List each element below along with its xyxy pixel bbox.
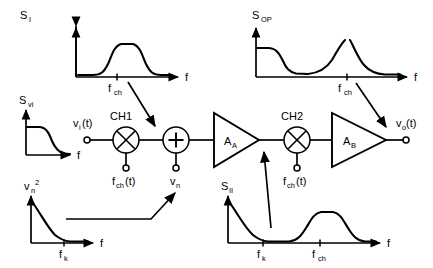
summer-node[interactable]: [163, 127, 189, 153]
plot-s-vi-ylabel: S: [19, 94, 26, 106]
plot-s-op-ylabel: S: [252, 9, 259, 21]
plot-s-op-xlabel: f: [414, 71, 418, 83]
plot-s-i-ylabel: S: [20, 9, 27, 21]
plot-s-i-tick-fch: f: [108, 82, 112, 94]
plot-s-vi: S vi f: [19, 94, 81, 161]
terminal-vi[interactable]: v i (t): [73, 117, 92, 143]
plot-s-ii-ylabel: S: [221, 180, 228, 192]
terminal-fch-2-suffix: (t): [296, 175, 306, 187]
plot-s-ii-xlabel: f: [387, 237, 391, 249]
plot-s-ii-ylabel-sub: II: [229, 186, 233, 195]
terminal-fch-1-sub: ch: [116, 181, 124, 190]
plot-s-op: S OP f f ch: [252, 9, 418, 97]
annotation-arrow-vn2-to-vn: [66, 193, 175, 219]
plot-vn2-ylabel-sub: n: [31, 186, 35, 195]
terminal-fch-1-suffix: (t): [125, 175, 135, 187]
plot-s-ii-tick-fk-sub: k: [262, 254, 266, 263]
plot-vn2-xlabel: f: [100, 237, 104, 249]
plot-vn2-ylabel: v: [24, 180, 30, 192]
mixer-ch2[interactable]: CH2: [281, 110, 310, 153]
terminal-fch-2[interactable]: f ch (t): [283, 165, 306, 190]
terminal-vi-sub: i: [79, 123, 81, 132]
mixer-ch1[interactable]: CH1: [110, 110, 139, 153]
amplifier-a-b-sub: B: [351, 141, 356, 150]
amplifier-a-a-label: A: [224, 135, 232, 147]
plot-s-ii-tick-fk: f: [257, 248, 261, 260]
terminal-vo[interactable]: v o (t): [396, 117, 416, 143]
plot-vn-squared: v n 2 f f k: [24, 178, 104, 263]
amplifier-a-b[interactable]: A B: [332, 113, 386, 167]
plot-vn2-tick-fk: f: [59, 248, 63, 260]
terminal-vn-sub: n: [176, 181, 180, 190]
plot-s-i-ylabel-sub: I: [29, 15, 31, 24]
plot-s-op-ylabel-sub: OP: [261, 15, 272, 24]
diagram-canvas: S I f f ch S OP f f ch S vi f: [0, 0, 433, 268]
mixer-ch2-label: CH2: [281, 110, 303, 122]
plot-s-ii-tick-fch-sub: ch: [318, 254, 326, 263]
terminal-fch-1[interactable]: f ch (t): [112, 165, 135, 190]
amplifier-a-b-label: A: [343, 135, 351, 147]
plot-s-i: S I f f ch: [20, 9, 189, 97]
plot-s-vi-xlabel: f: [77, 149, 81, 161]
amplifier-a-a[interactable]: A A: [214, 113, 259, 167]
terminal-fch-2-sub: ch: [287, 181, 295, 190]
terminal-vo-suffix: (t): [406, 117, 416, 129]
terminal-vi-suffix: (t): [82, 117, 92, 129]
plot-s-vi-ylabel-sub: vi: [28, 100, 34, 109]
annotation-arrow-sii-to-ampa: [264, 152, 271, 228]
annotation-arrow-si-to-summer: [128, 82, 155, 126]
plot-s-op-tick-fch-sub: ch: [344, 88, 352, 97]
plot-s-i-xlabel: f: [185, 71, 189, 83]
mixer-ch1-label: CH1: [110, 110, 132, 122]
plot-vn2-ylabel-sup: 2: [35, 178, 39, 187]
amplifier-a-a-sub: A: [232, 141, 237, 150]
plot-vn2-tick-fk-sub: k: [64, 254, 68, 263]
plot-s-op-tick-fch: f: [338, 82, 342, 94]
terminal-vn[interactable]: v n: [170, 165, 180, 190]
plot-s-ii-tick-fch: f: [312, 248, 316, 260]
plot-s-ii: S II f f k f ch: [221, 180, 391, 263]
plot-s-i-tick-fch-sub: ch: [114, 88, 122, 97]
annotation-arrow-sop-to-vo: [356, 83, 386, 127]
